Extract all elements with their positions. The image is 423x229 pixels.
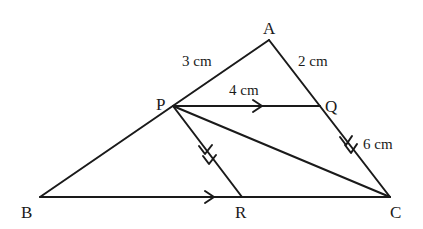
point-label-c: C bbox=[390, 203, 401, 222]
point-label-a: A bbox=[263, 19, 276, 38]
point-label-p: P bbox=[156, 95, 165, 114]
triangle-diagram: A P Q B R C 3 cm 2 cm 4 cm 6 cm bbox=[0, 0, 423, 229]
length-label-ap: 3 cm bbox=[182, 53, 212, 69]
segment-ab bbox=[40, 40, 269, 197]
segment-ac bbox=[269, 40, 390, 197]
length-label-aq: 2 cm bbox=[298, 53, 328, 69]
length-label-qc: 6 cm bbox=[363, 136, 393, 152]
point-label-q: Q bbox=[325, 97, 337, 116]
geometry-figure: A P Q B R C 3 cm 2 cm 4 cm 6 cm bbox=[0, 0, 423, 229]
segment-pc bbox=[173, 106, 390, 197]
point-label-r: R bbox=[235, 203, 247, 222]
length-label-pq: 4 cm bbox=[229, 82, 259, 98]
point-label-b: B bbox=[21, 203, 32, 222]
